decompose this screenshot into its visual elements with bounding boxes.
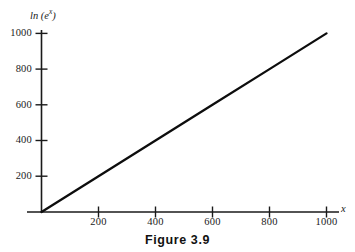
x-tick-label-1000: 1000	[307, 216, 347, 227]
y-tick-label-800: 800	[0, 63, 32, 74]
x-tick-label-200: 200	[79, 216, 119, 227]
x-tick-label-800: 800	[250, 216, 290, 227]
y-tick-label-1000: 1000	[0, 27, 32, 38]
y-tick-label-200: 200	[0, 170, 32, 181]
y-tick-label-400: 400	[0, 134, 32, 145]
y-axis-title-close: )	[52, 10, 56, 21]
figure-caption: Figure 3.9	[0, 233, 355, 247]
x-tick-label-600: 600	[193, 216, 233, 227]
y-axis-title-base: ln (e	[30, 10, 49, 21]
figure-container: 1000 800 600 400 200 200 400 600 800 100…	[0, 0, 355, 252]
y-tick-label-600: 600	[0, 99, 32, 110]
series-line-ln-ex	[42, 33, 327, 212]
chart-plot-area	[0, 0, 355, 252]
y-axis-title: ln (ex)	[30, 7, 56, 21]
x-tick-label-400: 400	[136, 216, 176, 227]
x-axis-title: x	[341, 203, 346, 214]
